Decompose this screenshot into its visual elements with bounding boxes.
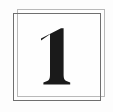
numeral-card: 1 1 xyxy=(0,0,113,112)
numeral-container: 1 xyxy=(13,13,101,101)
digit-one-serif-glyph: 1 xyxy=(37,26,77,88)
